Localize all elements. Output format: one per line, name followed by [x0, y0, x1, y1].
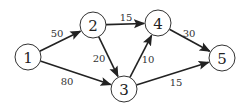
- edge-weight-label: 30: [183, 28, 196, 39]
- network-graph: 50801520103015 12345: [0, 0, 248, 112]
- arrow-icon: [40, 61, 110, 84]
- edge-weight-label: 15: [170, 77, 183, 88]
- node-label: 4: [153, 15, 163, 33]
- edge-weight-label: 15: [120, 12, 133, 23]
- node-3: 3: [111, 76, 137, 102]
- edge-weight-label: 80: [61, 76, 74, 87]
- node-2: 2: [80, 12, 106, 38]
- node-5: 5: [209, 45, 235, 71]
- node-label: 5: [217, 50, 227, 68]
- edge-weight-label: 20: [93, 53, 106, 64]
- edge-2-4: [106, 23, 144, 24]
- edge-1-3: [40, 61, 110, 84]
- node-label: 2: [88, 17, 98, 35]
- node-label: 3: [119, 81, 129, 99]
- edge-weight-label: 10: [142, 54, 155, 65]
- node-4: 4: [145, 10, 171, 36]
- node-1: 1: [15, 44, 41, 70]
- node-label: 1: [23, 49, 33, 67]
- arrow-icon: [106, 23, 144, 24]
- edge-weight-label: 50: [51, 28, 64, 39]
